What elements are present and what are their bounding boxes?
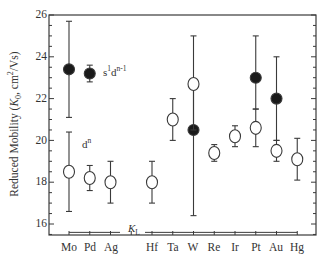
y-tick-label: 16 xyxy=(33,217,47,229)
filled-marker xyxy=(271,93,282,104)
open-marker xyxy=(167,113,178,126)
y-axis-label: Reduced Mobility (K0, cm2/Vs) xyxy=(6,34,22,214)
open-marker xyxy=(147,176,158,189)
open-marker xyxy=(292,153,303,166)
y-tick-label: 18 xyxy=(33,175,47,187)
annotation-dn: dn xyxy=(82,136,91,150)
open-marker xyxy=(84,172,95,185)
open-marker xyxy=(64,165,75,178)
y-tick-label: 26 xyxy=(33,8,47,20)
y-tick-label: 22 xyxy=(33,92,47,104)
open-marker xyxy=(271,144,282,157)
open-marker xyxy=(250,121,261,134)
open-marker xyxy=(230,130,241,143)
x-tick-label: Ag xyxy=(98,241,124,253)
filled-marker xyxy=(64,64,75,75)
annotation-s1dn-1: s1dn-1 xyxy=(103,64,127,78)
x-tick-label: Hg xyxy=(284,241,310,253)
annotation-kl: KL xyxy=(128,222,140,237)
open-marker xyxy=(188,77,199,90)
open-marker xyxy=(209,146,220,159)
chart-svg xyxy=(0,0,334,275)
y-tick-label: 24 xyxy=(33,50,47,62)
y-tick-label: 20 xyxy=(33,134,47,146)
open-marker xyxy=(105,176,116,189)
filled-marker xyxy=(250,72,261,83)
filled-marker xyxy=(84,68,95,79)
